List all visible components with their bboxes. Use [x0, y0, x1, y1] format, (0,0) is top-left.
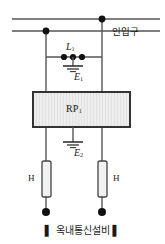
label-ground-e1-sub: 1 [80, 75, 83, 82]
label-ground-e1: E1 [74, 72, 83, 83]
label-service-entrance: 인입구 [112, 27, 139, 37]
label-arrester-l1-sub: 1 [72, 45, 75, 52]
caption-text: 옥내통신설비 [53, 225, 113, 236]
arrester-contact-dot-right [79, 54, 85, 60]
node-top-left [43, 28, 50, 35]
label-protector-rp1: RP1 [66, 104, 82, 115]
label-arrester-l1: L1 [66, 42, 75, 53]
arrester-contact-dot-left [61, 54, 67, 60]
fuse-left-h [42, 161, 51, 197]
label-ground-e2-sub: 2 [80, 151, 83, 158]
terminal-node-left [42, 208, 50, 216]
fuse-right-h [98, 161, 107, 197]
circuit-diagram: L1 E1 RP1 E2 H H 인입구 ▌옥내통신설비▌ [0, 0, 165, 244]
caption-left-bar: ▌ [45, 225, 53, 236]
label-ground-e2: E2 [74, 148, 83, 159]
caption-right-bar: ▌ [113, 225, 121, 236]
label-fuse-left-h: H [28, 174, 35, 183]
label-protector-rp1-sub: 1 [79, 107, 82, 114]
label-protector-rp1-text: RP [66, 103, 79, 114]
diagram-caption: ▌옥내통신설비▌ [0, 222, 165, 237]
node-top-right [99, 16, 106, 23]
label-fuse-right-h: H [113, 174, 120, 183]
terminal-node-right [98, 208, 106, 216]
circuit-schematic-svg [0, 0, 165, 244]
